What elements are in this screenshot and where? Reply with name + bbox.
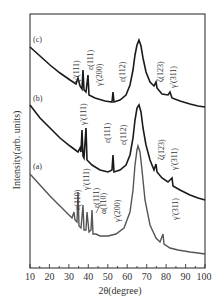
tick-label: 100	[197, 271, 212, 282]
x-tick-labels: 10 20 30 40 50 60 70 80 90 100	[25, 271, 212, 282]
peak-label: γ'(311)	[170, 148, 179, 171]
tick-label: 30	[64, 271, 74, 282]
peak-label: ε(112)	[118, 61, 127, 82]
peak-label: γ'(111)	[82, 168, 91, 191]
x-ticks	[30, 264, 205, 268]
peak-label: ε(112)	[119, 124, 128, 145]
peak-label: γ'(200)	[113, 199, 122, 223]
curve-label-a: (a)	[33, 162, 42, 171]
tick-label: 20	[44, 271, 54, 282]
peak-label: γ'(111)	[72, 60, 81, 83]
y-axis-label: Intensity(arb. units)	[11, 111, 23, 190]
tick-label: 90	[181, 271, 191, 282]
tick-label: 10	[25, 271, 35, 282]
peak-label: ε(111)	[103, 123, 112, 143]
tick-label: 60	[122, 271, 132, 282]
peak-label: ε(110)	[73, 189, 82, 210]
peak-label: ζ(123)	[157, 139, 166, 160]
peak-label: γ'(311)	[171, 198, 180, 221]
x-axis-label: 2θ(degree)	[98, 285, 141, 297]
peak-labels-b: γ'(111) ε(111) ε(112) ζ(123) γ'(311)	[79, 103, 179, 171]
tick-label: 70	[142, 271, 152, 282]
peak-label: ε(111)	[86, 50, 95, 70]
plot-frame	[30, 14, 205, 268]
curve-label-b: (b)	[33, 94, 43, 103]
peak-label: α(110)	[99, 192, 108, 214]
curve-label-c: (c)	[33, 35, 42, 44]
xrd-chart: 10 20 30 40 50 60 70 80 90 100 2θ(degree…	[0, 0, 220, 308]
peak-labels-a: ε(110) γ'(111) ε(111) α(110) γ'(200) γ'(…	[73, 168, 180, 223]
peak-label: γ'(200)	[95, 63, 104, 87]
peak-label: ζ(123)	[156, 61, 165, 82]
tick-label: 40	[83, 271, 93, 282]
peak-label: γ'(311)	[169, 66, 178, 89]
tick-label: 50	[103, 271, 113, 282]
tick-label: 80	[161, 271, 171, 282]
peak-label: γ'(111)	[79, 103, 88, 126]
